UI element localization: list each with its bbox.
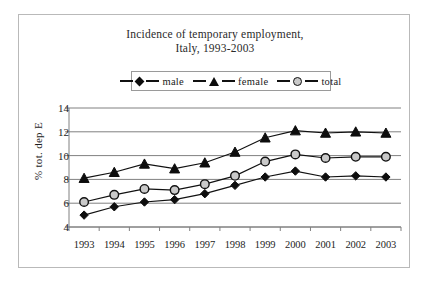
x-tick-label-1997: 1997 (195, 239, 216, 250)
x-tick-label-2002: 2002 (345, 239, 366, 250)
x-tick-label-2003: 2003 (376, 239, 397, 250)
x-tick-label-2001: 2001 (315, 239, 336, 250)
x-tick-label-1999: 1999 (255, 239, 276, 250)
x-tick-label-1998: 1998 (225, 239, 246, 250)
x-tick-label-1993: 1993 (74, 239, 95, 250)
x-tick-label-1994: 1994 (104, 239, 125, 250)
x-tick-label-2000: 2000 (285, 239, 306, 250)
x-axis-ticks: 1993199419951996199719981999200020012002… (19, 15, 411, 269)
x-tick-label-1995: 1995 (134, 239, 155, 250)
plot-area: % tot. dep E 141210864 19931994199519961… (19, 15, 411, 269)
chart-frame: Incidence of temporary employment, Italy… (18, 14, 410, 268)
x-tick-label-1996: 1996 (164, 239, 185, 250)
